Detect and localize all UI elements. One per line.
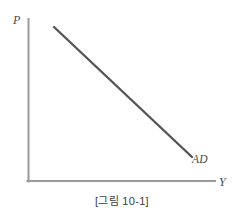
ad-curve-label: AD [192,154,208,166]
x-axis-label-output: Y [219,176,226,188]
y-axis-label-price: P [13,14,20,26]
figure-container: P Y AD [그림 10-1] [0,0,244,221]
figure-caption: [그림 10-1] [0,194,244,208]
ad-curve-line [54,27,192,157]
aggregate-demand-plot [0,0,244,221]
